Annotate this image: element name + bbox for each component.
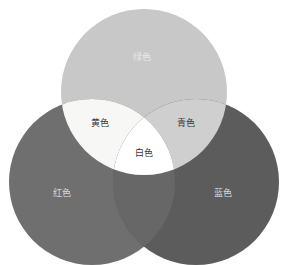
venn-diagram-canvas: 绿色 红色 蓝色 黄色 青色 白色 <box>0 0 288 265</box>
venn-diagram-graphic <box>0 0 288 265</box>
